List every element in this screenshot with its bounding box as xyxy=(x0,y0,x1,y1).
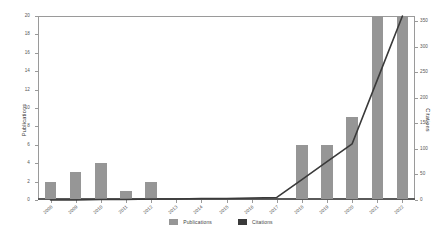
y-tick-label-left: 4 xyxy=(27,161,30,166)
x-tick-label: 2018 xyxy=(294,205,305,216)
y-tick-label-left: 6 xyxy=(27,143,30,148)
x-tick-label: 2013 xyxy=(168,205,179,216)
legend-item[interactable]: Citations xyxy=(238,219,273,225)
x-tick xyxy=(352,200,353,203)
x-tick xyxy=(302,200,303,203)
x-tick xyxy=(227,200,228,203)
x-tick xyxy=(402,200,403,203)
x-tick-label: 2022 xyxy=(395,205,406,216)
x-tick-label: 2021 xyxy=(369,205,380,216)
y-tick-label-left: 14 xyxy=(25,69,30,74)
x-tick-label: 2012 xyxy=(143,205,154,216)
x-tick xyxy=(277,200,278,203)
x-tick-label: 2008 xyxy=(43,205,54,216)
legend-label: Publications xyxy=(183,219,212,225)
chart-legend: PublicationsCitations xyxy=(0,219,442,225)
y-tick-label-right: 250 xyxy=(420,70,428,75)
y-tick-label-right: 350 xyxy=(420,19,428,24)
y-tick-label-right: 150 xyxy=(420,121,428,126)
plot-area: 02468101214161820 050100150200250300350 … xyxy=(38,16,415,200)
y-tick-label-left: 18 xyxy=(25,32,30,37)
y-tick-right xyxy=(415,174,418,175)
x-tick xyxy=(176,200,177,203)
legend-label: Citations xyxy=(252,219,273,225)
x-tick xyxy=(377,200,378,203)
x-tick-label: 2019 xyxy=(319,205,330,216)
x-tick-label: 2011 xyxy=(118,205,129,215)
y-tick-right xyxy=(415,200,418,201)
y-tick-label-right: 100 xyxy=(420,147,428,152)
x-tick xyxy=(252,200,253,203)
y-tick-label-left: 2 xyxy=(27,179,30,184)
x-tick-label: 2014 xyxy=(193,205,204,216)
y-tick-label-right: 200 xyxy=(420,95,428,100)
x-tick-label: 2010 xyxy=(93,205,104,216)
x-tick xyxy=(327,200,328,203)
y-tick-right xyxy=(415,72,418,73)
x-tick-label: 2017 xyxy=(269,205,280,216)
y-tick-label-right: 0 xyxy=(420,198,423,203)
x-tick xyxy=(151,200,152,203)
y-tick-right xyxy=(415,47,418,48)
y-tick-right xyxy=(415,21,418,22)
y-tick-label-right: 50 xyxy=(420,172,425,177)
x-tick-label: 2016 xyxy=(244,205,255,216)
x-tick-label: 2015 xyxy=(219,205,230,216)
y-tick-label-left: 0 xyxy=(27,198,30,203)
x-tick-label: 2009 xyxy=(68,205,79,216)
line-series-citations xyxy=(38,16,415,200)
legend-item[interactable]: Publications xyxy=(169,219,212,225)
y-tick-right xyxy=(415,98,418,99)
x-tick xyxy=(101,200,102,203)
y-tick-label-left: 8 xyxy=(27,124,30,129)
y-tick-left xyxy=(35,200,38,201)
legend-swatch-icon xyxy=(169,219,178,225)
x-tick-label: 2020 xyxy=(344,205,355,216)
y-tick-label-left: 10 xyxy=(25,106,30,111)
publications-citations-chart: Publications Citations 02468101214161820… xyxy=(0,0,442,240)
y-tick-label-right: 300 xyxy=(420,44,428,49)
x-tick xyxy=(126,200,127,203)
y-tick-right xyxy=(415,123,418,124)
x-tick xyxy=(201,200,202,203)
y-tick-label-left: 20 xyxy=(25,14,30,19)
legend-swatch-icon xyxy=(238,219,247,225)
y-tick-label-left: 16 xyxy=(25,51,30,56)
y-tick-right xyxy=(415,149,418,150)
y-tick-label-left: 12 xyxy=(25,87,30,92)
